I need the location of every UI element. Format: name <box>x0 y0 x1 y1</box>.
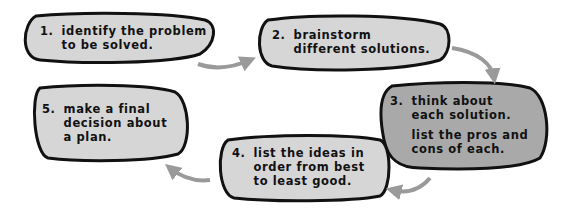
arrow-4-to-5 <box>170 168 210 180</box>
step-3-line-2: each solution. <box>412 108 529 122</box>
step-5-line-3: a plan. <box>64 130 168 144</box>
arrow-1-to-2 <box>198 60 250 67</box>
step-3-number: 3. <box>390 94 404 156</box>
step-2-number: 2. <box>272 28 286 56</box>
step-1-line-2: to be solved. <box>62 38 207 52</box>
step-4-line-3: to least good. <box>254 174 365 188</box>
step-4-text: 4. List the ideas in order from best to … <box>232 146 365 188</box>
step-5-line-2: decision about <box>64 116 168 130</box>
arrow-3-to-4 <box>392 178 430 192</box>
step-2-text: 2. Brainstorm different solutions. <box>272 28 430 56</box>
step-4-line-2: order from best <box>254 160 365 174</box>
step-3-text: 3. Think about each solution. List the p… <box>390 94 528 156</box>
step-2-line-1: Brainstorm <box>294 28 431 42</box>
step-5-text: 5. Make a final decision about a plan. <box>42 102 167 144</box>
step-5-line-1: Make a final <box>64 102 168 116</box>
step-3-line-3: List the pros and <box>412 128 529 142</box>
step-3-line-4: cons of each. <box>412 142 529 156</box>
arrow-2-to-3 <box>452 48 494 78</box>
step-5-number: 5. <box>42 102 56 144</box>
step-3-line-1: Think about <box>412 94 529 108</box>
step-4-number: 4. <box>232 146 246 188</box>
step-1-text: 1. Identify the problem to be solved. <box>40 24 207 52</box>
step-1-line-1: Identify the problem <box>62 24 207 38</box>
step-4-line-1: List the ideas in <box>254 146 365 160</box>
step-1-number: 1. <box>40 24 54 52</box>
step-2-line-2: different solutions. <box>294 42 431 56</box>
